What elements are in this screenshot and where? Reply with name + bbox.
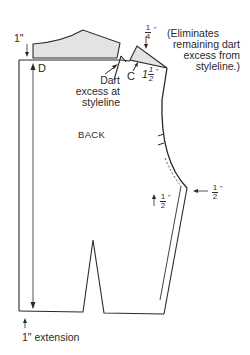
extension-label: 1" extension — [22, 332, 79, 343]
armhole-curve — [162, 68, 187, 188]
fraction-numerator: 1 — [160, 193, 166, 201]
side-half-left-fraction: 1 2 — [160, 193, 166, 210]
top-measure-label: 1" — [14, 33, 24, 44]
half-up-arrow-head — [152, 194, 156, 199]
arrow-down-head — [31, 302, 36, 309]
back-title: BACK — [78, 129, 105, 140]
body-top-line — [19, 60, 130, 61]
inch-mark: " — [156, 66, 159, 77]
fraction-numerator: 1 — [145, 24, 151, 32]
eliminates-note-line: styleline.) — [160, 61, 240, 72]
one-half-fraction: 1 2 — [148, 66, 154, 83]
extension-arrow-head — [23, 318, 27, 323]
fraction-denominator: 2 — [148, 75, 154, 83]
point-c-label: C — [127, 71, 135, 82]
half-left-arrow-head — [193, 189, 198, 193]
fraction-numerator: 1 — [148, 66, 154, 74]
inch-mark: " — [168, 192, 171, 203]
armhole-notch — [158, 143, 164, 145]
fraction-denominator: 4 — [145, 33, 151, 41]
point-d-label: D — [38, 63, 46, 74]
dart-note: Dart excess at styleline — [62, 75, 120, 108]
inch-mark: " — [220, 183, 223, 194]
inch-mark: " — [154, 24, 157, 35]
fraction-denominator: 2 — [160, 202, 166, 210]
side-seam-outer — [164, 188, 187, 314]
waist-dart — [19, 240, 164, 314]
quarter-measure-arrow-head — [144, 44, 148, 49]
fraction-numerator: 1 — [212, 184, 218, 192]
arrow-up-head — [31, 63, 36, 70]
quarter-fraction: 1 4 — [145, 24, 151, 41]
top-measure-arrow-head — [25, 52, 29, 57]
side-half-right-fraction: 1 2 — [212, 184, 218, 201]
one-half-whole: 1 — [142, 69, 148, 80]
fraction-denominator: 2 — [212, 193, 218, 201]
dart-note-line: styleline — [62, 97, 120, 108]
eliminates-note: (Eliminates remaining dart excess from s… — [160, 28, 240, 72]
armhole-dashed — [165, 158, 181, 186]
yoke-piece — [33, 30, 120, 58]
